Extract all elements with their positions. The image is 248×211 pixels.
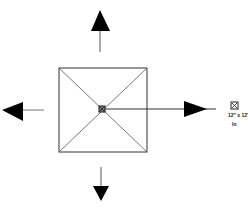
arrow-right-icon <box>184 101 207 117</box>
arrow-left-icon <box>2 102 44 121</box>
arrow-down-icon <box>93 167 109 201</box>
drain-sublabel: In <box>232 121 236 127</box>
drainage-diagram <box>0 0 248 211</box>
drain-size-label: 12" x 12" <box>228 112 248 118</box>
center-drain-icon <box>99 106 105 112</box>
arrow-up-icon <box>91 10 110 52</box>
outlet-drain-icon <box>231 102 238 109</box>
